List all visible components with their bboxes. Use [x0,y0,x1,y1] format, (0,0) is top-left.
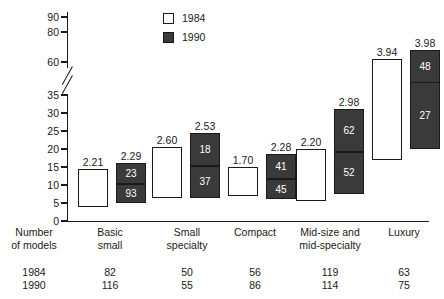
table-row-label: 1984 [2,266,66,278]
segment-value: 93 [125,189,136,199]
table-cell: 119 [290,266,370,278]
y-tick-label: 10 [3,180,59,190]
segment-value: 62 [343,126,354,136]
bar-segment-bottom: 27 [411,83,439,151]
bar-segment-bottom: 52 [335,152,363,195]
segment-value: 48 [419,62,430,72]
bar-segment-top: 18 [191,134,219,166]
bar-value-label: 2.28 [271,142,291,153]
bar-1990: 2.531837 [190,133,220,198]
table-cell: 56 [215,266,295,278]
axis-break-icon [57,68,79,94]
row-header: Number of models [2,226,66,251]
segment-value: 37 [199,177,210,187]
bar-segment-bottom: 93 [117,184,145,204]
segment-value: 41 [275,162,286,172]
segment-value: 23 [125,169,136,179]
table-cell: 114 [290,279,370,291]
category-label-line1: Luxury [388,226,420,238]
bar-segment-top: 62 [335,110,363,151]
bar-segment-bottom: 45 [267,179,295,201]
bar-1984: 2.60 [152,147,182,197]
bar-1984: 2.21 [78,169,108,207]
bar-value-label: 2.60 [157,135,177,146]
category-labels: Number of models BasicsmallSmallspecialt… [0,226,436,260]
category-label-line1: Mid-size and [300,226,360,238]
table-row-label: 1990 [2,279,66,291]
y-tick-label: 20 [3,144,59,154]
row-header-line1: Number [15,226,52,238]
bar-value-label: 2.53 [195,121,215,132]
bar-1990: 2.292393 [116,163,146,203]
y-tick-label: 35 [3,90,59,100]
bar-value-label: 2.98 [339,97,359,108]
segment-value: 52 [343,168,354,178]
table-cell: 63 [364,266,444,278]
table-cell: 116 [70,279,150,291]
bar-segment-top: 48 [411,51,439,83]
bar-value-label: 1.70 [233,155,253,166]
bar-segment-top: 41 [267,155,295,178]
bar-1990: 2.986252 [334,109,364,194]
y-tick-label: 80 [3,27,59,37]
table-row: 1990116558611475 [0,279,436,292]
y-axis-line [67,12,68,222]
segment-value: 18 [199,145,210,155]
category-label-line2: specialty [139,239,235,252]
category-label-line1: Compact [234,226,276,238]
plot-area: 05101520253035608090 2.212.2923932.602.5… [0,0,436,232]
y-tick-label: 60 [3,57,59,67]
category-label-line1: Small [174,226,200,238]
bar-1984: 3.94 [372,59,402,160]
bar-value-label: 2.20 [301,137,321,148]
bar-value-label: 2.29 [121,151,141,162]
segment-value: 27 [419,111,430,121]
bar-value-label: 3.98 [415,38,435,49]
category-label: Luxury [356,226,444,239]
table-row: 198482505611963 [0,266,436,279]
table-cell: 82 [70,266,150,278]
y-tick-label: 30 [3,108,59,118]
category-label-line1: Basic [97,226,123,238]
bar-value-label: 3.94 [377,47,397,58]
x-axis-line [67,221,429,222]
bar-1990: 2.284145 [266,154,296,199]
y-tick-label: 5 [3,198,59,208]
table-cell: 86 [215,279,295,291]
bar-1984: 2.20 [296,149,326,201]
data-table: 1984825056119631990116558611475 [0,266,436,296]
y-tick-label: 0 [3,216,59,226]
y-tick-label: 15 [3,162,59,172]
y-tick-label: 25 [3,126,59,136]
bar-segment-top: 23 [117,164,145,184]
table-cell: 75 [364,279,444,291]
row-header-line2: of models [2,239,66,252]
segment-value: 45 [275,185,286,195]
bar-1990: 3.984827 [410,50,440,149]
category-label-line2: mid-specialty [282,239,378,252]
bar-segment-bottom: 37 [191,166,219,198]
bar-value-label: 2.21 [83,157,103,168]
bar-1984: 1.70 [228,167,258,196]
y-tick-label: 90 [3,12,59,22]
